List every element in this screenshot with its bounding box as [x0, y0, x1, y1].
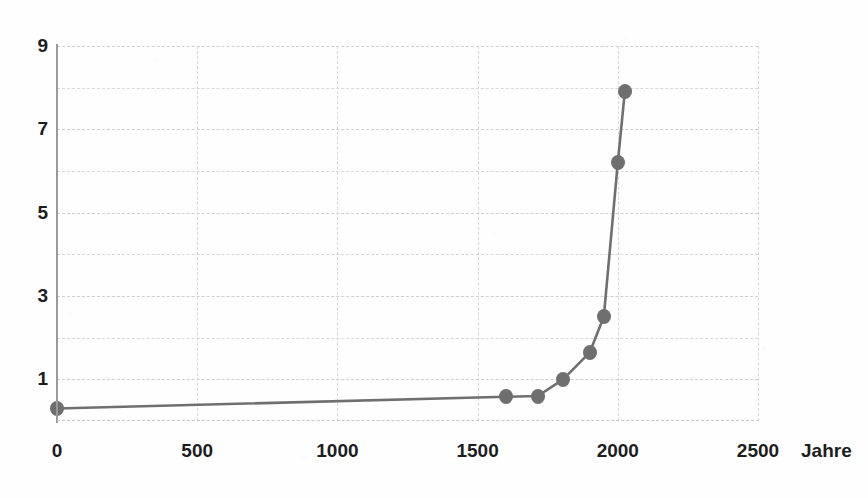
y-axis-line — [56, 44, 58, 423]
gridline-x-2500 — [758, 46, 759, 421]
gridline-x-500 — [197, 46, 198, 421]
data-point-2000 — [611, 155, 625, 170]
gridline-y-4 — [57, 254, 758, 255]
y-tick-label-9: 9 — [14, 35, 48, 57]
population-growth-chart: 97531 05001000150020002500 Jahre — [0, 0, 868, 498]
gridline-x-1000 — [337, 46, 338, 421]
x-axis-line — [57, 420, 759, 422]
x-tick-label-2500: 2500 — [737, 440, 779, 462]
y-tick-label-7: 7 — [14, 118, 48, 140]
gridline-y-7 — [57, 129, 758, 130]
gridline-y-5 — [57, 213, 758, 214]
data-point-1805 — [556, 372, 570, 387]
y-tick-label-3: 3 — [14, 285, 48, 307]
gridline-y-9 — [57, 46, 758, 47]
gridline-y-1 — [57, 379, 758, 380]
data-point-1900 — [583, 345, 597, 360]
x-tick-label-500: 500 — [181, 440, 213, 462]
data-point-2025 — [618, 84, 632, 99]
data-point-1950 — [597, 309, 611, 324]
gridline-x-2000 — [618, 46, 619, 421]
gridline-y-6 — [57, 171, 758, 172]
gridline-y-3 — [57, 296, 758, 297]
data-point-1715 — [531, 389, 545, 404]
gridline-y-8 — [57, 88, 758, 89]
x-tick-label-1500: 1500 — [456, 440, 498, 462]
gridline-y-2 — [57, 338, 758, 339]
y-tick-label-5: 5 — [14, 202, 48, 224]
x-axis-title: Jahre — [801, 440, 852, 462]
plot-area — [57, 46, 758, 421]
x-tick-label-1000: 1000 — [316, 440, 358, 462]
y-tick-label-1: 1 — [14, 368, 48, 390]
x-tick-label-0: 0 — [52, 440, 63, 462]
data-point-1600 — [499, 389, 513, 404]
gridline-x-1500 — [478, 46, 479, 421]
y-axis-tick-labels: 97531 — [6, 0, 48, 498]
x-tick-label-2000: 2000 — [597, 440, 639, 462]
